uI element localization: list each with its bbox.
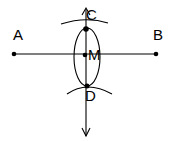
point-c xyxy=(83,26,89,32)
point-a xyxy=(12,52,17,57)
point-m xyxy=(83,53,88,58)
label-a: A xyxy=(13,26,23,43)
bisector-diagram: A B C M D xyxy=(0,0,173,141)
label-m: M xyxy=(88,46,101,63)
label-b: B xyxy=(153,26,163,43)
label-d: D xyxy=(85,87,96,104)
label-c: C xyxy=(86,6,97,23)
upper-arc xyxy=(61,20,108,24)
point-b xyxy=(154,52,159,57)
